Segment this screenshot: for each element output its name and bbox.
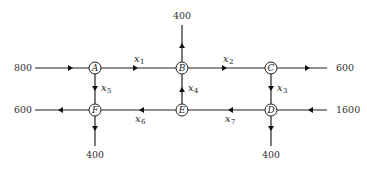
edge-lines bbox=[35, 25, 327, 146]
flow-out-F-down: 400 bbox=[86, 149, 104, 160]
edge-label-x7: x 7 bbox=[225, 113, 235, 126]
edge-label-x6: x 6 bbox=[135, 113, 146, 126]
var-sub: 4 bbox=[194, 87, 199, 95]
edge-label-x3: x 3 bbox=[277, 82, 287, 95]
arrow-up-icon bbox=[179, 43, 185, 48]
flow-network-diagram: A B C D E F x 1 x 2 x 3 x 4 x 5 x 6 bbox=[0, 0, 367, 170]
arrow-left-icon bbox=[58, 107, 63, 113]
arrow-right-icon bbox=[133, 65, 138, 71]
arrow-up-icon bbox=[179, 87, 185, 92]
arrow-right-icon bbox=[222, 65, 227, 71]
node-label: C bbox=[268, 63, 275, 73]
arrow-left-icon bbox=[308, 107, 313, 113]
edge-label-x1: x 1 bbox=[134, 53, 144, 66]
arrow-right-icon bbox=[305, 65, 310, 71]
flow-out-D: 400 bbox=[262, 149, 280, 160]
arrow-down-icon bbox=[92, 86, 98, 91]
arrowheads bbox=[58, 43, 313, 131]
arrow-down-icon bbox=[92, 126, 98, 131]
edge-label-x4: x 4 bbox=[188, 82, 199, 95]
var-sub: 3 bbox=[283, 87, 287, 95]
node-A: A bbox=[89, 62, 101, 74]
node-label: D bbox=[266, 105, 274, 115]
node-C: C bbox=[265, 62, 277, 74]
node-E: E bbox=[176, 104, 188, 116]
arrow-right-icon bbox=[68, 65, 73, 71]
var-sub: 7 bbox=[231, 118, 235, 126]
flow-in-D: 1600 bbox=[336, 104, 360, 115]
arrow-down-icon bbox=[268, 86, 274, 91]
var-sub: 6 bbox=[141, 118, 146, 126]
var-sub: 2 bbox=[229, 58, 233, 66]
var-sub: 5 bbox=[107, 87, 111, 95]
node-D: D bbox=[265, 104, 277, 116]
node-label: A bbox=[91, 63, 99, 73]
node-F: F bbox=[89, 104, 101, 116]
node-B: B bbox=[176, 62, 188, 74]
edge-label-x2: x 2 bbox=[223, 53, 233, 66]
node-label: F bbox=[91, 105, 99, 115]
edge-label-x5: x 5 bbox=[101, 82, 111, 95]
flow-out-B: 400 bbox=[173, 10, 191, 21]
node-label: E bbox=[178, 105, 186, 115]
flow-out-C: 600 bbox=[336, 62, 354, 73]
arrow-down-icon bbox=[268, 126, 274, 131]
flow-out-F-left: 600 bbox=[14, 104, 32, 115]
var-sub: 1 bbox=[140, 58, 144, 66]
node-label: B bbox=[178, 63, 186, 73]
flow-in-A: 800 bbox=[14, 62, 32, 73]
